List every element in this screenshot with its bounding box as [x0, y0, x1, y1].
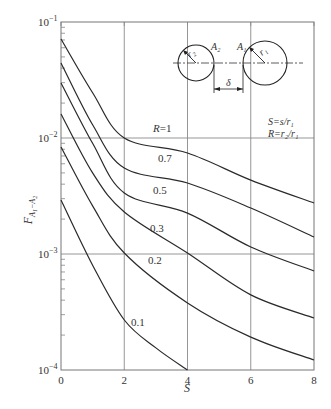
curve-label: 0.7	[158, 152, 172, 164]
label-delta: δ	[226, 77, 231, 88]
y-tick-labels: 10−110−210−310−4	[38, 14, 58, 376]
arrow-left-icon	[214, 87, 220, 91]
y-tick-label: 10−2	[38, 130, 58, 144]
arrow-right-icon	[237, 87, 243, 91]
x-tick-label: 6	[248, 374, 254, 386]
y-axis-title-text: FA1−A2	[21, 196, 38, 226]
curve-label: R=1	[152, 122, 171, 134]
x-axis-title: S	[184, 381, 190, 395]
y-minor-ticks	[61, 27, 65, 335]
label-a1: A₁	[236, 41, 247, 52]
curve-label: 0.2	[148, 254, 162, 266]
curve-label: 0.1	[131, 316, 145, 328]
y-tick-label: 10−3	[38, 246, 58, 260]
definition-r: R=r₂/r₁	[267, 128, 298, 139]
x-tick-label: 0	[58, 374, 64, 386]
x-tick-label: 8	[311, 374, 317, 386]
inset-diagram: r₂ r₁ A₂ A₁ δ	[173, 41, 303, 93]
chart-figure: R=10.70.50.30.20.1 02468 10−110−210−310−…	[0, 0, 331, 409]
curve-labels: R=10.70.50.30.20.1	[131, 122, 172, 328]
y-axis-title: FA1−A2	[21, 196, 38, 226]
definition-s: S=s/r₁	[268, 116, 294, 127]
label-a2: A₂	[210, 41, 221, 52]
x-tick-label: 2	[122, 374, 128, 386]
y-tick-label: 10−4	[38, 362, 58, 376]
curve-label: 0.5	[153, 184, 167, 196]
grid-lines	[61, 22, 314, 370]
y-tick-label: 10−1	[38, 14, 58, 28]
curve-label: 0.3	[150, 222, 164, 234]
